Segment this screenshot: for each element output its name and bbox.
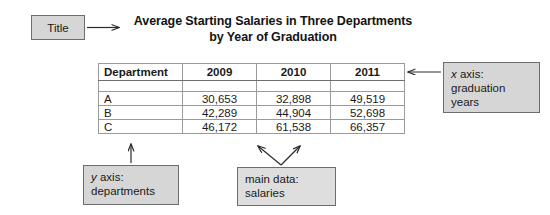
table-row: B 42,289 44,904 52,698 [99, 106, 405, 120]
table-header-row: Department 2009 2010 2011 [99, 64, 405, 81]
arrow-main-data-left [258, 146, 281, 165]
callout-title: Title [31, 15, 85, 40]
callout-main-data-line2: salaries [245, 186, 299, 200]
callout-main-data: main data: salaries [237, 167, 336, 206]
cell-department: C [99, 120, 183, 134]
annotated-table-figure: Title Average Starting Salaries in Three… [0, 0, 550, 215]
spacer-cell-2009 [183, 81, 257, 92]
cell-department: A [99, 92, 183, 106]
cell-2009: 30,653 [183, 92, 257, 106]
cell-2010: 61,538 [257, 120, 331, 134]
cell-2011: 49,519 [331, 92, 405, 106]
callout-y-axis: y axis: departments [83, 165, 179, 205]
callout-x-axis: x axis: graduation years [443, 62, 540, 113]
callout-main-data-line1: main data: [245, 172, 299, 186]
callout-x-axis-line2: graduation [451, 81, 505, 95]
chart-title-line1: Average Starting Salaries in Three Depar… [123, 13, 423, 29]
callout-y-axis-line2: departments [91, 184, 155, 198]
column-header-department: Department [99, 64, 183, 81]
chart-title-line2: by Year of Graduation [123, 29, 423, 45]
column-header-2009: 2009 [183, 64, 257, 81]
chart-title: Average Starting Salaries in Three Depar… [123, 13, 423, 45]
callout-x-axis-line1-rest: axis: [457, 68, 484, 80]
cell-2010: 44,904 [257, 106, 331, 120]
arrow-main-data-right [281, 146, 300, 165]
cell-2010: 32,898 [257, 92, 331, 106]
table-row: A 30,653 32,898 49,519 [99, 92, 405, 106]
cell-2011: 66,357 [331, 120, 405, 134]
column-header-2010: 2010 [257, 64, 331, 81]
spacer-cell-department [99, 81, 183, 92]
cell-2011: 52,698 [331, 106, 405, 120]
cell-department: B [99, 106, 183, 120]
spacer-cell-2011 [331, 81, 405, 92]
callout-x-axis-line1: x axis: [451, 67, 505, 81]
table-spacer-row [99, 81, 405, 92]
salary-table: Department 2009 2010 2011 A 30,653 32,89… [98, 63, 405, 134]
callout-y-axis-line1: y axis: [91, 170, 155, 184]
table-row: C 46,172 61,538 66,357 [99, 120, 405, 134]
column-header-2011: 2011 [331, 64, 405, 81]
cell-2009: 46,172 [183, 120, 257, 134]
callout-y-axis-line1-rest: axis: [97, 171, 124, 183]
spacer-cell-2010 [257, 81, 331, 92]
callout-title-label: Title [47, 21, 68, 35]
cell-2009: 42,289 [183, 106, 257, 120]
callout-x-axis-line3: years [451, 95, 505, 109]
